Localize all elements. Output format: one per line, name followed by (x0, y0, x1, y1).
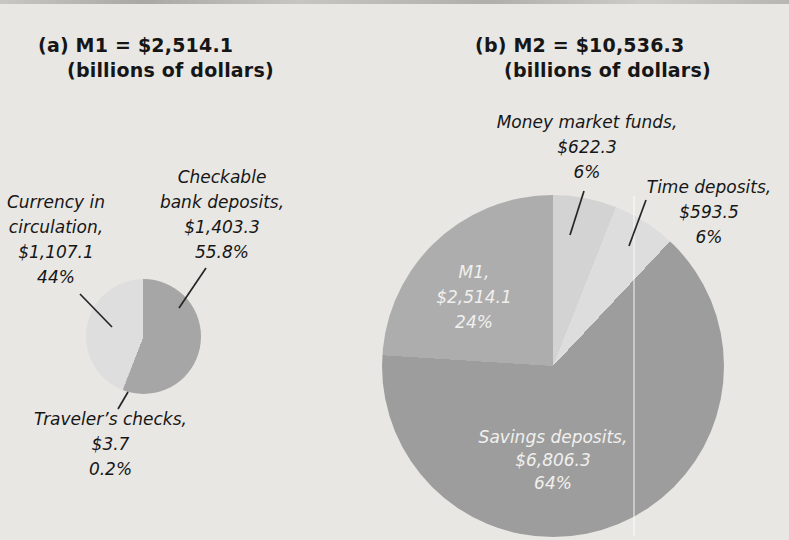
label-checkable-bank-deposits: Checkable bank deposits, $1,403.3 55.8% (154, 165, 290, 265)
label-money-market-funds: Money market funds, $622.3 6% (489, 110, 685, 185)
label-m1-inside-line1: M1, (421, 260, 527, 285)
chart-a-title-line1: (a) M1 = $2,514.1 (38, 33, 274, 58)
label-currency-line1: Currency in (0, 190, 112, 215)
label-time-deposits-line2: $593.5 (629, 200, 789, 225)
label-currency-line4: 44% (0, 265, 112, 290)
pie-m1 (86, 279, 201, 394)
money-aggregates-figure: (a) M1 = $2,514.1 (billions of dollars) … (0, 0, 789, 540)
label-currency-line2: circulation, (0, 215, 112, 240)
label-currency-line3: $1,107.1 (0, 240, 112, 265)
label-time-deposits: Time deposits, $593.5 6% (629, 175, 789, 250)
label-travelers-checks: Traveler’s checks, $3.7 0.2% (33, 407, 188, 482)
label-checkable-line3: $1,403.3 (154, 215, 290, 240)
label-checkable-line4: 55.8% (154, 240, 290, 265)
label-time-deposits-line3: 6% (629, 225, 789, 250)
label-time-deposits-line1: Time deposits, (629, 175, 789, 200)
label-savings-line2: $6,806.3 (457, 449, 649, 472)
chart-a-title: (a) M1 = $2,514.1 (billions of dollars) (38, 33, 274, 83)
label-money-market-line1: Money market funds, (489, 110, 685, 135)
label-m1-inside-line3: 24% (421, 310, 527, 335)
label-travelers-line2: $3.7 (33, 432, 188, 457)
scan-page-top-edge (0, 0, 789, 4)
label-savings-line1: Savings deposits, (457, 426, 649, 449)
label-m1-inside-line2: $2,514.1 (421, 285, 527, 310)
label-m1-inside: M1, $2,514.1 24% (421, 260, 527, 335)
label-travelers-line3: 0.2% (33, 457, 188, 482)
label-money-market-line2: $622.3 (489, 135, 685, 160)
chart-b-title: (b) M2 = $10,536.3 (billions of dollars) (475, 33, 711, 83)
label-savings-line3: 64% (457, 472, 649, 495)
label-checkable-line2: bank deposits, (154, 190, 290, 215)
chart-b-title-line2: (billions of dollars) (504, 58, 711, 83)
label-travelers-line1: Traveler’s checks, (33, 407, 188, 432)
label-currency-in-circulation: Currency in circulation, $1,107.1 44% (0, 190, 112, 290)
label-savings-deposits-inside: Savings deposits, $6,806.3 64% (457, 426, 649, 495)
label-checkable-line1: Checkable (154, 165, 290, 190)
chart-a-title-line2: (billions of dollars) (67, 58, 274, 83)
chart-b-title-line1: (b) M2 = $10,536.3 (475, 33, 711, 58)
